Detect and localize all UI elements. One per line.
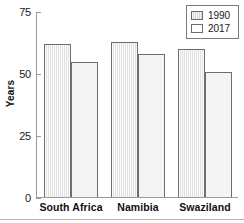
legend-label-2017: 2017 bbox=[208, 23, 230, 34]
y-tick-0 bbox=[36, 198, 41, 199]
y-tick-label-0: 0 bbox=[0, 192, 31, 204]
y-tick-label-25: 25 bbox=[0, 130, 31, 142]
bar-namibia-2017 bbox=[138, 54, 165, 198]
bar-south-africa-1990 bbox=[44, 44, 71, 198]
y-tick-label-50: 50 bbox=[0, 68, 31, 80]
y-tick-label-wrap: 0 bbox=[0, 192, 31, 204]
legend-item: 1990 bbox=[191, 9, 235, 22]
x-label-swaziland: Swaziland bbox=[165, 201, 244, 213]
y-tick-label-75: 75 bbox=[0, 6, 31, 18]
bar-swaziland-2017 bbox=[205, 72, 232, 198]
plot-area bbox=[37, 12, 238, 198]
legend: 1990 2017 bbox=[186, 5, 239, 39]
legend-swatch-2017 bbox=[191, 24, 203, 33]
x-axis-line bbox=[36, 197, 238, 198]
y-tick-label-wrap: 50 bbox=[0, 68, 31, 80]
bar-namibia-1990 bbox=[111, 42, 138, 198]
bar-south-africa-2017 bbox=[71, 62, 98, 198]
bottom-divider bbox=[0, 219, 244, 220]
legend-item: 2017 bbox=[191, 22, 235, 35]
bar-swaziland-1990 bbox=[178, 49, 205, 198]
y-tick-label-wrap: 25 bbox=[0, 130, 31, 142]
legend-swatch-1990 bbox=[191, 11, 203, 20]
y-tick-label-wrap: 75 bbox=[0, 6, 31, 18]
bar-chart: Years 0255075 South AfricaNamibiaSwazila… bbox=[0, 0, 244, 223]
legend-label-1990: 1990 bbox=[208, 10, 230, 21]
